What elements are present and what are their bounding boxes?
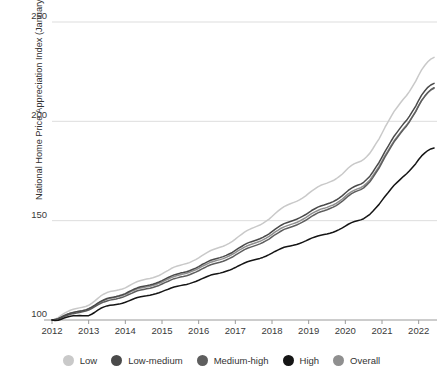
- legend-swatch-icon: [283, 355, 294, 366]
- x-tick-label: 2018: [261, 325, 282, 336]
- y-tick-label: 250: [31, 10, 47, 21]
- chart-figure: National Home Price Appreciation Index (…: [0, 0, 443, 379]
- x-tick-label: 2021: [371, 325, 392, 336]
- series-line-low-medium: [52, 83, 434, 320]
- legend-item-low[interactable]: Low: [63, 355, 97, 366]
- y-tick-label: 200: [31, 109, 47, 120]
- x-tick-label: 2019: [298, 325, 319, 336]
- legend-item-medium-high[interactable]: Medium-high: [197, 355, 269, 366]
- legend-item-overall[interactable]: Overall: [333, 355, 380, 366]
- x-tick-label: 2013: [78, 325, 99, 336]
- x-tick-label: 2015: [151, 325, 172, 336]
- x-tick-label: 2016: [188, 325, 209, 336]
- legend-label: Low: [80, 355, 97, 366]
- legend-item-low-medium[interactable]: Low-medium: [111, 355, 182, 366]
- chart-svg: 1001502002502012201320142015201620172018…: [0, 0, 443, 340]
- y-tick-label: 100: [31, 308, 47, 319]
- x-tick-label: 2020: [335, 325, 356, 336]
- legend-label: Low-medium: [128, 355, 182, 366]
- x-tick-label: 2017: [225, 325, 246, 336]
- series-line-high: [52, 148, 434, 321]
- legend-swatch-icon: [111, 355, 122, 366]
- x-tick-label: 2014: [115, 325, 136, 336]
- legend-label: Overall: [350, 355, 380, 366]
- legend-swatch-icon: [197, 355, 208, 366]
- legend-label: High: [300, 355, 320, 366]
- y-tick-label: 150: [31, 209, 47, 220]
- legend-label: Medium-high: [214, 355, 269, 366]
- legend-swatch-icon: [63, 355, 74, 366]
- x-tick-label: 2022: [408, 325, 429, 336]
- legend-item-high[interactable]: High: [283, 355, 320, 366]
- series-line-medium-high: [52, 88, 434, 320]
- series-line-overall: [52, 88, 434, 320]
- legend-swatch-icon: [333, 355, 344, 366]
- series-line-low: [52, 57, 434, 320]
- plot-area: 1001502002502012201320142015201620172018…: [0, 0, 443, 340]
- chart-legend: LowLow-mediumMedium-highHighOverall: [0, 345, 443, 375]
- x-tick-label: 2012: [41, 325, 62, 336]
